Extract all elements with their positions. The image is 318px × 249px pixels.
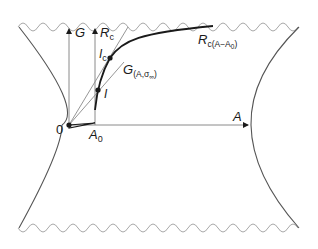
wavy-top-edge xyxy=(18,23,298,31)
a-axis-label: A xyxy=(232,109,242,124)
g-line-critical xyxy=(69,27,128,125)
point-origin xyxy=(66,122,71,127)
i-label: I xyxy=(104,87,108,101)
specimen-right-edge xyxy=(251,27,299,228)
ic-label: Ic xyxy=(99,47,107,63)
point-ic xyxy=(107,55,112,60)
r-curve-label: Rc(A−A0) xyxy=(198,32,237,50)
g-line-label: G(A,σ∞) xyxy=(123,62,157,80)
wavy-bottom-edge xyxy=(18,224,298,232)
point-i xyxy=(95,87,100,92)
g-axis-label: G xyxy=(75,25,85,40)
origin-label: 0 xyxy=(56,122,63,137)
a0-label: A0 xyxy=(88,127,103,144)
rc-axis-label: Rc xyxy=(100,25,114,42)
diagram-canvas: G Rc Ic I G(A,σ∞) Rc(A−A0) 0 A0 A xyxy=(0,0,318,249)
